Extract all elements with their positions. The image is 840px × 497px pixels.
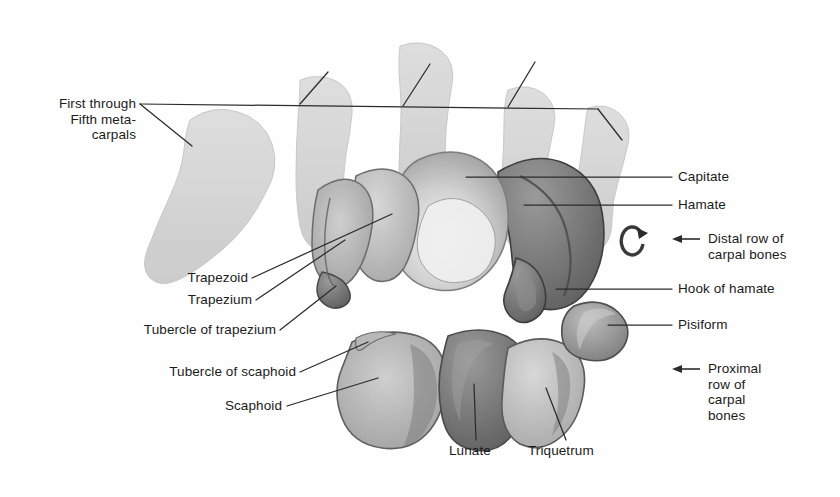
label-distal-row: Distal row of carpal bones <box>708 231 787 262</box>
proximal-row-left-arrow-icon <box>672 365 700 373</box>
first-metacarpal <box>144 109 274 283</box>
label-tubercle-of-trapezium: Tubercle of trapezium <box>60 322 276 338</box>
label-triquetrum: Triquetrum <box>528 443 594 459</box>
label-tubercle-of-scaphoid: Tubercle of scaphoid <box>86 364 296 380</box>
label-hamate: Hamate <box>678 197 726 213</box>
label-pisiform: Pisiform <box>678 317 728 333</box>
label-proximal-row: Proximal row of carpal bones <box>708 361 761 423</box>
label-lunate: Lunate <box>449 443 491 459</box>
label-trapezoid: Trapezoid <box>86 270 248 286</box>
label-hook-of-hamate: Hook of hamate <box>678 281 775 297</box>
label-metacarpals: First through Fifth meta- carpals <box>14 96 136 143</box>
label-trapezium: Trapezium <box>86 292 252 308</box>
proximal-carpal-row <box>337 302 628 450</box>
leader-metacarpals-1 <box>140 104 192 146</box>
label-capitate: Capitate <box>678 169 729 185</box>
leader-tubercle-of-trapezium <box>280 286 336 330</box>
label-scaphoid: Scaphoid <box>110 398 282 414</box>
curved-rotation-arrow-head <box>637 228 648 239</box>
triquetrum-bone <box>502 339 585 448</box>
distal-row-left-arrow-icon <box>672 235 700 243</box>
anatomy-figure: First through Fifth meta- carpals Capita… <box>0 0 840 497</box>
row-arrows <box>621 227 700 373</box>
